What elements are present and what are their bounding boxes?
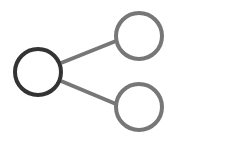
- share-diagram-icon: [0, 0, 227, 159]
- edge-root-to-bottom: [61, 81, 116, 104]
- edge-root-to-top: [61, 41, 116, 63]
- child-top-node-icon: [116, 13, 162, 59]
- child-bottom-node-icon: [116, 84, 162, 130]
- root-node-icon: [15, 49, 61, 95]
